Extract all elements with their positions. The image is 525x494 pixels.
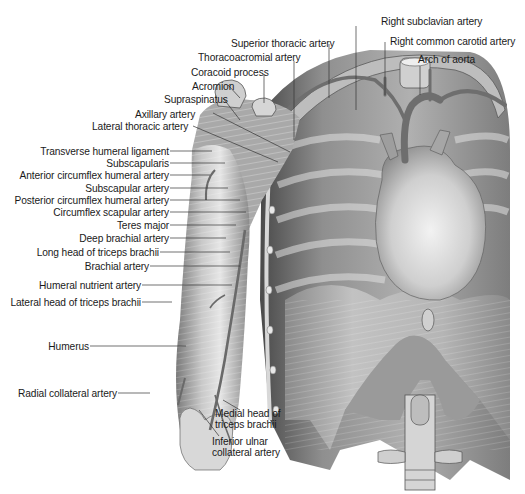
label-brachial-artery: Brachial artery [85, 261, 149, 272]
label-superior-thoracic-artery: Superior thoracic artery [231, 38, 334, 49]
label-teres-major: Teres major [117, 220, 169, 231]
diaphragm [285, 285, 510, 450]
label-transverse-humeral-ligament: Transverse humeral ligament [40, 146, 169, 157]
label-coracoid-process: Coracoid process [191, 67, 269, 78]
label-anterior-circumflex-humeral-artery: Anterior circumflex humeral artery [20, 170, 169, 181]
label-circumflex-scapular-artery: Circumflex scapular artery [53, 207, 169, 218]
label-humeral-nutrient-artery: Humeral nutrient artery [39, 280, 141, 291]
label-lateral-thoracic-artery: Lateral thoracic artery [92, 121, 188, 132]
label-arch-of-aorta: Arch of aorta [418, 54, 475, 65]
label-radial-collateral-artery: Radial collateral artery [18, 388, 117, 399]
anatomy-figure: Right subclavian artery Superior thoraci… [0, 0, 525, 494]
label-acromion: Acromion [192, 81, 234, 92]
label-inferior-ulnar-collateral-artery: Inferior ulnar collateral artery [212, 436, 280, 458]
label-supraspinatus: Supraspinatus [164, 94, 228, 105]
label-posterior-circumflex-humeral-artery: Posterior circumflex humeral artery [15, 195, 169, 206]
label-thoracoacromial-artery: Thoracoacromial artery [198, 52, 301, 63]
label-deep-brachial-artery: Deep brachial artery [79, 233, 169, 244]
label-medial-head-line1: Medial head of [215, 408, 280, 419]
label-axillary-artery: Axillary artery [135, 109, 195, 120]
label-long-head-of-triceps-brachii: Long head of triceps brachii [37, 247, 159, 258]
label-subscapularis: Subscapularis [106, 158, 169, 169]
label-medial-head-line2: triceps brachii [215, 419, 280, 430]
label-inferior-ulnar-line2: collateral artery [212, 447, 280, 458]
label-humerus: Humerus [48, 341, 89, 352]
label-medial-head-of-triceps-brachii: Medial head of triceps brachii [215, 408, 280, 430]
label-subscapular-artery: Subscapular artery [85, 183, 169, 194]
label-right-common-carotid-artery: Right common carotid artery [390, 36, 515, 47]
label-right-subclavian-artery: Right subclavian artery [381, 16, 482, 27]
label-inferior-ulnar-line1: Inferior ulnar [212, 436, 280, 447]
label-lateral-head-of-triceps-brachii: Lateral head of triceps brachii [10, 297, 141, 308]
